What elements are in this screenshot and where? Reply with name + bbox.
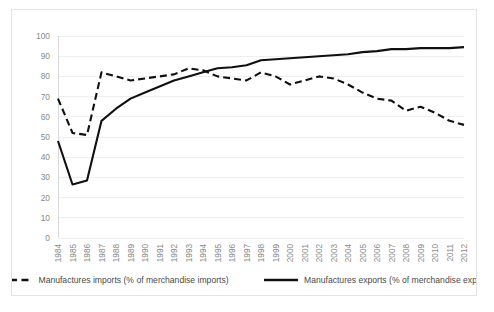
x-axis-tick-label: 2008 xyxy=(402,244,411,263)
x-axis-tick-label: 1986 xyxy=(83,244,92,263)
y-axis-tick-label: 70 xyxy=(41,92,51,102)
y-axis-tick-label: 60 xyxy=(41,112,51,122)
x-axis-tick-label: 1985 xyxy=(69,244,78,263)
x-axis-tick-label: 1992 xyxy=(170,244,179,263)
x-axis-tick-label: 2003 xyxy=(330,244,339,263)
legend-label-imports: Manufactures imports (% of merchandise i… xyxy=(38,275,228,285)
x-axis-tick-label: 2010 xyxy=(431,244,440,263)
y-axis-tick-label: 10 xyxy=(41,213,51,223)
series-lines xyxy=(58,47,464,184)
y-axis-tick-label: 40 xyxy=(41,152,51,162)
y-axis-tick-label: 30 xyxy=(41,172,51,182)
line-chart: 0102030405060708090100 19841985198619871… xyxy=(12,10,476,295)
x-axis-tick-label: 2011 xyxy=(446,244,455,262)
y-axis-tick-label: 20 xyxy=(41,193,51,203)
x-axis-tick-label: 1994 xyxy=(199,244,208,263)
y-axis-tick-label: 0 xyxy=(45,233,50,243)
x-axis-tick-label: 2001 xyxy=(301,244,310,263)
x-axis-tick-label: 2012 xyxy=(460,244,469,263)
legend-label-exports: Manufactures exports (% of merchandise e… xyxy=(304,275,476,285)
x-axis-tick-label: 2004 xyxy=(344,244,353,263)
series-line-imports xyxy=(58,68,464,135)
x-axis-tick-label: 2002 xyxy=(315,244,324,263)
x-axis-tick-label: 1998 xyxy=(257,244,266,263)
x-axis-tick-label: 1989 xyxy=(127,244,136,263)
x-axis-tick-label: 1999 xyxy=(272,244,281,263)
x-axis-tick-labels: 1984198519861987198819891990199119921993… xyxy=(54,244,469,263)
x-axis-tick-label: 2006 xyxy=(373,244,382,263)
x-axis-tick-label: 1987 xyxy=(98,244,107,263)
y-axis-tick-label: 80 xyxy=(41,71,51,81)
x-axis-tick-label: 1993 xyxy=(185,244,194,263)
chart-legend: Manufactures imports (% of merchandise i… xyxy=(12,275,476,285)
y-axis-tick-label: 100 xyxy=(36,31,50,41)
x-axis-tick-label: 2009 xyxy=(417,244,426,263)
x-axis-tick-label: 1995 xyxy=(214,244,223,263)
y-axis-tick-label: 50 xyxy=(41,132,51,142)
y-axis-tick-labels: 0102030405060708090100 xyxy=(36,31,50,243)
series-line-exports xyxy=(58,47,464,184)
x-axis-tick-label: 2005 xyxy=(359,244,368,263)
gridlines xyxy=(58,36,464,238)
x-axis-tick-label: 2000 xyxy=(286,244,295,263)
x-axis-tick-label: 1984 xyxy=(54,244,63,263)
x-axis-tick-label: 1990 xyxy=(141,244,150,263)
x-axis-tick-label: 2007 xyxy=(388,244,397,263)
y-axis-tick-label: 90 xyxy=(41,51,51,61)
x-axis-tick-label: 1988 xyxy=(112,244,121,263)
x-axis-tick-label: 1991 xyxy=(156,244,165,263)
x-axis-tick-label: 1997 xyxy=(243,244,252,263)
chart-card: 0102030405060708090100 19841985198619871… xyxy=(11,9,477,296)
x-axis-tick-label: 1996 xyxy=(228,244,237,263)
